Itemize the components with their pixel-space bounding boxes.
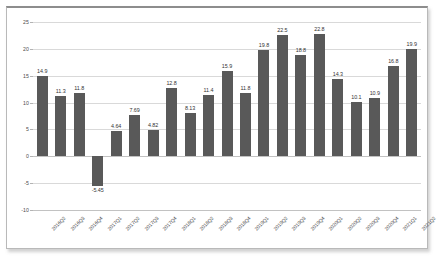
bar bbox=[92, 156, 103, 185]
y-axis-tick-mark bbox=[30, 22, 33, 23]
bar bbox=[314, 34, 325, 156]
bar bbox=[258, 50, 269, 156]
x-axis-tick-label: 2016Q3 bbox=[69, 215, 86, 232]
x-axis-tick-label: 2019Q4 bbox=[309, 215, 326, 232]
bar-data-label: 19.9 bbox=[407, 41, 417, 47]
x-axis-tick-label: 2019Q1 bbox=[254, 215, 271, 232]
y-axis-tick-mark bbox=[30, 103, 33, 104]
bar-data-label: 19.8 bbox=[259, 42, 269, 48]
bar bbox=[332, 79, 343, 156]
bar-data-label: 7.69 bbox=[129, 107, 139, 113]
y-axis-tick-mark bbox=[30, 183, 33, 184]
plot-area: 2520151050-5-10 14.911.311.8-5.454.647.6… bbox=[33, 22, 421, 210]
bar bbox=[55, 96, 66, 157]
bar-data-label: 22.8 bbox=[314, 26, 324, 32]
bar-data-label: 22.5 bbox=[277, 27, 287, 33]
y-axis-tick-mark bbox=[30, 49, 33, 50]
bar bbox=[406, 49, 417, 156]
y-axis-tick-label: 0 bbox=[26, 153, 29, 159]
bar bbox=[351, 102, 362, 156]
bar bbox=[74, 93, 85, 156]
x-axis-tick-label: 2018Q4 bbox=[235, 215, 252, 232]
chart-container: 2520151050-5-10 14.911.311.8-5.454.647.6… bbox=[6, 6, 428, 249]
bar-data-label: 8.13 bbox=[185, 105, 195, 111]
gridline bbox=[33, 49, 421, 50]
y-axis-tick-label: 20 bbox=[23, 46, 29, 52]
bar bbox=[240, 93, 251, 156]
x-axis-tick-label: 2017Q4 bbox=[161, 215, 178, 232]
y-axis-tick-mark bbox=[30, 129, 33, 130]
bar bbox=[129, 115, 140, 156]
bar-data-label: 18.8 bbox=[296, 47, 306, 53]
bar-data-label: 15.9 bbox=[222, 63, 232, 69]
bar-data-label: 14.9 bbox=[37, 68, 47, 74]
bar bbox=[185, 113, 196, 157]
x-axis-tick-label: 2020Q2 bbox=[346, 215, 363, 232]
x-axis-tick-label: 2016Q4 bbox=[87, 215, 104, 232]
x-axis-tick-label: 2020Q3 bbox=[364, 215, 381, 232]
x-axis-tick-label: 2018Q1 bbox=[180, 215, 197, 232]
bar-data-label: 11.8 bbox=[74, 85, 84, 91]
y-axis-tick-label: -10 bbox=[21, 207, 29, 213]
y-axis-tick-label: -5 bbox=[24, 180, 29, 186]
bar bbox=[222, 71, 233, 156]
bar-data-label: 11.4 bbox=[204, 87, 214, 93]
y-axis-tick-label: 5 bbox=[26, 126, 29, 132]
bar-data-label: 16.8 bbox=[388, 58, 398, 64]
bar-data-label: 4.64 bbox=[111, 123, 121, 129]
bar-data-label: 10.1 bbox=[351, 94, 361, 100]
bar-data-label: 12.8 bbox=[166, 80, 176, 86]
bar bbox=[166, 88, 177, 157]
bar-data-label: 11.8 bbox=[241, 85, 251, 91]
x-axis-tick-label: 2017Q2 bbox=[124, 215, 141, 232]
bar bbox=[37, 76, 48, 156]
bar bbox=[203, 95, 214, 156]
bar-data-label: 11.3 bbox=[56, 88, 66, 94]
x-axis-tick-label: 2020Q4 bbox=[383, 215, 400, 232]
x-axis-tick-label: 2016Q2 bbox=[50, 215, 67, 232]
x-axis-tick-label: 2018Q2 bbox=[198, 215, 215, 232]
y-axis-tick-label: 10 bbox=[23, 100, 29, 106]
x-axis-tick-label: 2021Q2 bbox=[420, 215, 437, 232]
bar-data-label: 10.9 bbox=[370, 90, 380, 96]
bar bbox=[111, 131, 122, 156]
bar bbox=[295, 55, 306, 156]
x-axis-tick-label: 2019Q3 bbox=[291, 215, 308, 232]
y-axis-tick-mark bbox=[30, 156, 33, 157]
bar-data-label: 14.3 bbox=[333, 71, 343, 77]
bar bbox=[369, 98, 380, 157]
gridline bbox=[33, 22, 421, 23]
y-axis-tick-mark bbox=[30, 76, 33, 77]
bar-data-label: 4.82 bbox=[148, 122, 158, 128]
bar-data-label: -5.45 bbox=[92, 187, 104, 193]
x-axis-tick-label: 2020Q1 bbox=[328, 215, 345, 232]
bar bbox=[388, 66, 399, 156]
y-axis-tick-label: 15 bbox=[23, 73, 29, 79]
x-axis-line bbox=[33, 210, 421, 211]
x-axis-tick-label: 2018Q3 bbox=[217, 215, 234, 232]
bar bbox=[148, 130, 159, 156]
y-axis-tick-label: 25 bbox=[23, 19, 29, 25]
x-axis-tick-label: 2019Q2 bbox=[272, 215, 289, 232]
x-axis-tick-label: 2017Q3 bbox=[143, 215, 160, 232]
bar bbox=[277, 35, 288, 156]
x-axis-tick-label: 2021Q1 bbox=[401, 215, 418, 232]
x-axis-tick-label: 2017Q1 bbox=[106, 215, 123, 232]
